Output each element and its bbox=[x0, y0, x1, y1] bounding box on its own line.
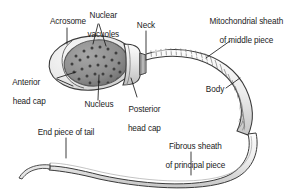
label-mitochondrial-sheath: Mitochondrial sheath of middle piece bbox=[190, 8, 294, 55]
label-fibrous-sheath-line1: Fibrous sheath bbox=[169, 142, 222, 151]
label-neck: Neck bbox=[126, 21, 166, 30]
label-anterior-head-cap-line1: Anterior bbox=[12, 78, 40, 87]
label-nuclear-vacuoles-line1: Nuclear bbox=[90, 11, 118, 20]
label-mitochondrial-sheath-line2: of middle piece bbox=[220, 36, 274, 45]
posterior-head-cap-and-neck bbox=[123, 44, 146, 85]
label-nuclear-vacuoles: Nuclear vacuoles bbox=[68, 2, 130, 49]
label-anterior-head-cap: Anterior head cap bbox=[4, 69, 60, 116]
end-piece-of-tail-shape bbox=[19, 165, 50, 179]
label-nuclear-vacuoles-line2: vacuoles bbox=[88, 30, 120, 39]
label-body: Body bbox=[200, 85, 230, 94]
diagram-canvas: Acrosome Nuclear vacuoles Neck Mitochond… bbox=[0, 0, 299, 191]
label-anterior-head-cap-line2: head cap bbox=[13, 97, 46, 106]
label-fibrous-sheath: Fibrous sheath of principal piece bbox=[152, 133, 230, 180]
label-end-piece-of-tail: End piece of tail bbox=[26, 128, 106, 137]
label-posterior-head-cap-line1: Posterior bbox=[128, 105, 160, 114]
label-mitochondrial-sheath-line1: Mitochondrial sheath bbox=[210, 17, 284, 26]
label-fibrous-sheath-line2: of principal piece bbox=[166, 161, 226, 170]
label-posterior-head-cap-line2: head cap bbox=[128, 124, 161, 133]
